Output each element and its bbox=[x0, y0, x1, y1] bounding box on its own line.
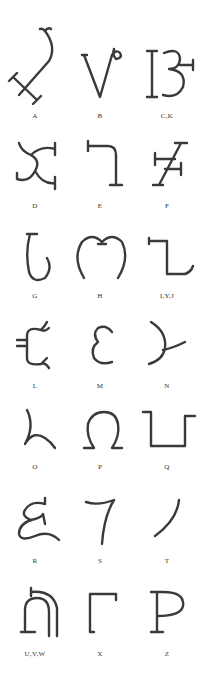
glyph-q-icon bbox=[133, 404, 201, 464]
label-g: G bbox=[1, 292, 69, 300]
glyph-l-icon bbox=[1, 318, 69, 378]
glyph-b-icon bbox=[66, 35, 134, 105]
label-z: Z bbox=[133, 650, 201, 658]
label-q: Q bbox=[133, 463, 201, 471]
label-b: B bbox=[66, 112, 134, 120]
label-i-y-j: I,Y,J bbox=[133, 292, 201, 300]
glyph-h-icon bbox=[66, 228, 134, 288]
glyph-z-icon bbox=[133, 584, 201, 644]
glyph-m-icon bbox=[66, 318, 134, 378]
label-u-v-w: U,V,W bbox=[1, 650, 69, 658]
label-m: M bbox=[66, 382, 134, 390]
label-c-k: C,K bbox=[133, 112, 201, 120]
label-e: E bbox=[66, 202, 134, 210]
label-h: H bbox=[66, 292, 134, 300]
glyph-x-icon bbox=[66, 584, 134, 644]
glyph-c-k-icon bbox=[133, 35, 201, 105]
glyph-u-v-w-icon bbox=[1, 584, 69, 644]
glyph-r-icon bbox=[1, 494, 69, 554]
label-n: N bbox=[133, 382, 201, 390]
label-d: D bbox=[1, 202, 69, 210]
glyph-e-icon bbox=[66, 135, 134, 195]
label-l: L bbox=[1, 382, 69, 390]
label-r: R bbox=[1, 557, 69, 565]
glyph-s-icon bbox=[66, 494, 134, 554]
label-o: O bbox=[1, 463, 69, 471]
glyph-f-icon bbox=[133, 135, 201, 195]
glyph-t-icon bbox=[133, 494, 201, 554]
glyph-d-icon bbox=[1, 135, 69, 195]
glyph-n-icon bbox=[133, 318, 201, 378]
glyph-a-icon bbox=[1, 25, 69, 105]
glyph-p-icon bbox=[66, 404, 134, 464]
label-f: F bbox=[133, 202, 201, 210]
label-t: T bbox=[133, 557, 201, 565]
label-s: S bbox=[66, 557, 134, 565]
label-a: A bbox=[1, 112, 69, 120]
glyph-o-icon bbox=[1, 404, 69, 464]
label-x: X bbox=[66, 650, 134, 658]
glyph-g-icon bbox=[1, 228, 69, 288]
glyph-i-y-j-icon bbox=[133, 228, 201, 288]
label-p: P bbox=[66, 463, 134, 471]
